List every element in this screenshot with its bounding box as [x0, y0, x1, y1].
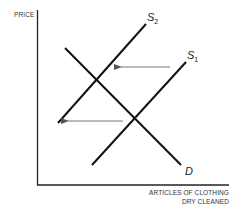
- s1-subscript: 1: [194, 56, 198, 63]
- supply-s2-label: S2: [147, 11, 158, 25]
- supply-demand-diagram: PRICE ARTICLES OF CLOTHING DRY CLEANED S…: [0, 0, 243, 213]
- s2-subscript: 2: [154, 18, 158, 25]
- supply-s1-label: S1: [187, 49, 198, 63]
- y-axis-label: PRICE: [14, 10, 34, 19]
- x-axis-label-line2: DRY CLEANED: [149, 197, 229, 206]
- demand-curve: [65, 48, 181, 165]
- diagram-canvas: [0, 0, 243, 213]
- x-axis-label: ARTICLES OF CLOTHING DRY CLEANED: [149, 188, 229, 206]
- demand-label: D: [185, 165, 193, 177]
- supply-curve-s1: [92, 62, 186, 165]
- supply-curve-s2: [58, 24, 146, 123]
- d-letter: D: [185, 165, 193, 177]
- x-axis-label-line1: ARTICLES OF CLOTHING: [149, 188, 229, 197]
